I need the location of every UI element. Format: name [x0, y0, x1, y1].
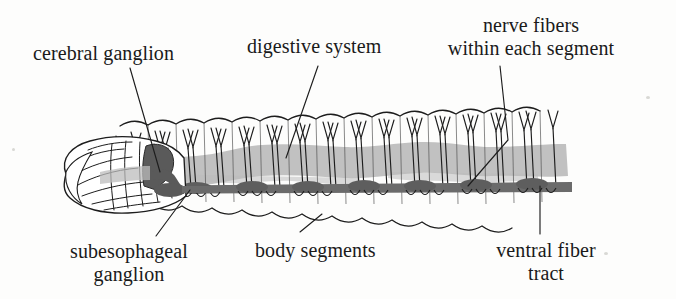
label-nerve-fibers: nerve fibers within each segment — [413, 14, 649, 60]
label-nerve-fibers-line1: nerve fibers — [413, 14, 649, 37]
label-subesophageal-ganglion: subesophageal ganglion — [36, 240, 222, 286]
label-digestive-system: digestive system — [247, 35, 381, 58]
worm-nervous-system-figure: cerebral ganglion digestive system nerve… — [0, 0, 676, 299]
label-nerve-fibers-line2: within each segment — [413, 37, 649, 60]
label-body-segments: body segments — [255, 239, 376, 262]
leader-digestive-system — [286, 66, 318, 158]
label-subesophageal-line2: ganglion — [36, 263, 222, 286]
label-ventral-line1: ventral fiber — [466, 239, 626, 262]
label-ventral-fiber-tract: ventral fiber tract — [466, 239, 626, 285]
scan-speck — [646, 96, 650, 99]
label-subesophageal-line1: subesophageal — [36, 240, 222, 263]
leader-body-segments — [300, 214, 322, 232]
scan-speck — [12, 148, 15, 151]
scan-speck — [604, 252, 608, 255]
label-cerebral-ganglion: cerebral ganglion — [33, 42, 174, 65]
label-ventral-line2: tract — [466, 262, 626, 285]
